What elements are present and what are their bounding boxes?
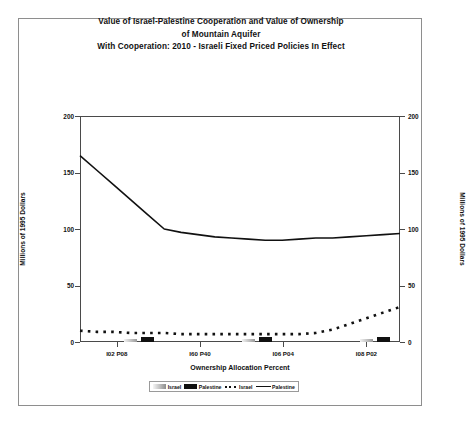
y-tick-label: 100 (34, 226, 74, 233)
legend-item-israel-line: Israel (225, 384, 253, 390)
legend-swatch-israel-bar-icon (153, 384, 166, 389)
y-tick-label: 100 (408, 226, 448, 233)
x-axis-title: Ownership Allocation Percent (80, 364, 400, 371)
legend-swatch-palestine-solid-icon (256, 386, 271, 388)
series-line-israel-dotted-line (80, 307, 400, 334)
series-line-palestine-solid-line (80, 156, 400, 241)
y-tick-mark (400, 286, 405, 287)
legend-item-palestine-bar: Palestine (184, 384, 221, 390)
x-tick-label: I02 P08 (87, 350, 147, 358)
legend-swatch-palestine-bar-icon (184, 384, 197, 389)
y-tick-label: 200 (408, 113, 448, 120)
legend-item-palestine-line: Palestine (256, 384, 295, 390)
y-tick-mark (400, 342, 405, 343)
chart-title-line-2: of Mountain Aquifer (0, 29, 442, 42)
y-tick-label: 150 (408, 169, 448, 176)
x-tick-mark (366, 342, 367, 347)
legend-item-israel-bar: Israel (153, 384, 181, 390)
y-axis-right-title: Millions of 1995 Dollars (459, 192, 466, 265)
x-tick-label: I60 P40 (170, 350, 230, 358)
chart-legend: Israel Palestine Israel Palestine (149, 381, 299, 392)
line-series-layer (80, 116, 400, 342)
chart-title-line-3: With Cooperation: 2010 - Israeli Fixed P… (0, 41, 442, 54)
y-tick-mark (400, 229, 405, 230)
legend-label-palestine-bar: Palestine (199, 384, 222, 390)
y-tick-label: 0 (408, 339, 448, 346)
y-tick-mark (400, 173, 405, 174)
x-tick-mark (283, 342, 284, 347)
legend-label-israel-line: Israel (239, 384, 253, 390)
y-tick-label: 0 (34, 339, 74, 346)
y-tick-label: 200 (34, 113, 74, 120)
x-tick-label: I08 P02 (336, 350, 396, 358)
y-tick-label: 50 (34, 282, 74, 289)
y-tick-label: 150 (34, 169, 74, 176)
x-tick-mark (200, 342, 201, 347)
y-axis-left-title: Millions of 1995 Dollars (19, 192, 26, 265)
chart-title-line-1: Value of Israel-Palestine Cooperation an… (0, 16, 442, 29)
x-tick-mark (117, 342, 118, 347)
legend-label-palestine-line: Palestine (272, 384, 295, 390)
x-tick-label: I06 P04 (253, 350, 313, 358)
legend-swatch-israel-dotted-icon (225, 384, 238, 389)
plot-area: 050100150200 050100150200 I02 P08I60 P40… (80, 116, 400, 342)
y-tick-mark (75, 342, 80, 343)
legend-label-israel-bar: Israel (168, 384, 182, 390)
y-tick-mark (400, 116, 405, 117)
chart-title: Value of Israel-Palestine Cooperation an… (0, 16, 442, 54)
y-tick-label: 50 (408, 282, 448, 289)
